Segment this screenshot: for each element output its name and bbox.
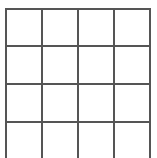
grid-horizontal-line xyxy=(5,83,151,85)
grid-horizontal-line xyxy=(5,121,151,123)
grid-horizontal-line xyxy=(5,8,151,10)
grid-horizontal-line xyxy=(5,45,151,47)
grid-diagram xyxy=(0,0,157,158)
